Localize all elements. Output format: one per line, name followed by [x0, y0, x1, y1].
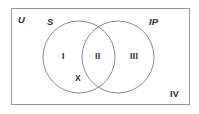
region-label-ii: II [95, 52, 101, 61]
region-label-i: I [62, 52, 65, 61]
venn-diagram-figure: U S IP I II III IV X [0, 0, 199, 114]
region-label-iv: IV [170, 90, 179, 99]
set-label-ip: IP [149, 17, 158, 27]
set-label-s: S [47, 17, 54, 27]
point-label-x: X [75, 74, 81, 83]
set-circle-ip [82, 21, 154, 93]
region-label-iii: III [130, 52, 138, 61]
universe-label: U [18, 15, 25, 25]
